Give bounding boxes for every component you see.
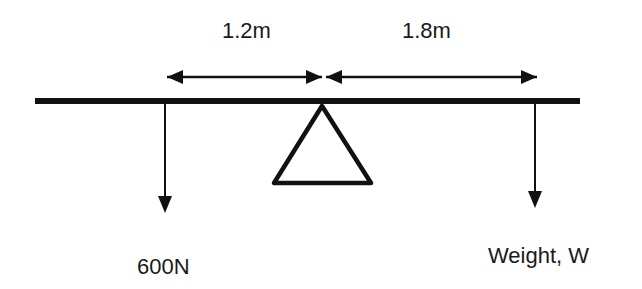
dimension-label-right: 1.8m [402, 20, 451, 42]
dimension-arrow-left [167, 70, 322, 84]
beam [35, 98, 580, 104]
force-arrow-right [528, 104, 542, 208]
dimension-label-left: 1.2m [222, 20, 271, 42]
pivot-triangle-icon [274, 106, 371, 183]
force-label-right: Weight, W [488, 245, 589, 267]
dimension-arrow-right [326, 70, 537, 84]
lever-diagram: 1.2m 1.8m 600N Weight, W [0, 0, 642, 289]
force-arrow-left [158, 104, 172, 213]
force-label-left: 600N [137, 256, 190, 278]
